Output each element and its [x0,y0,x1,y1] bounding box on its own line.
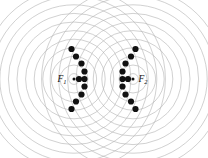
intersection-dots-layer [68,46,138,112]
intersection-dot [81,76,87,82]
intersection-dot [125,76,131,82]
intersection-dot [68,106,74,112]
wave-diagram-canvas: F1F2 [0,0,208,158]
focus-label-f1: F1 [56,74,66,85]
intersection-dot [132,46,138,52]
interference-figure: F1F2 [0,0,208,158]
intersection-dot [132,106,138,112]
intersection-dot [76,76,82,82]
intersection-dot [128,53,134,59]
intersection-dot [128,98,134,104]
intersection-dot [78,60,84,66]
intersection-dot [119,76,125,82]
intersection-dot [81,83,87,89]
intersection-dot [122,60,128,66]
focus-label-subscript: 1 [63,78,66,85]
intersection-dot [119,83,125,89]
source-center-f2 [132,78,135,81]
intersection-dot [119,68,125,74]
intersection-dot [73,98,79,104]
intersection-dot [73,53,79,59]
wavefront-rings-layer [0,0,208,158]
intersection-dot [122,91,128,97]
intersection-dot [81,68,87,74]
intersection-dot [68,46,74,52]
source-center-f1 [73,78,76,81]
intersection-dot [78,91,84,97]
